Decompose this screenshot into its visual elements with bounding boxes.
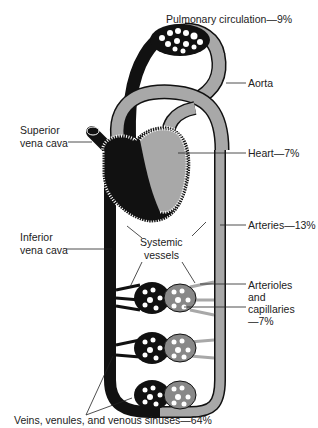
circulation-diagram: [0, 0, 318, 428]
label-systemic-vessels-line2: vessels: [144, 249, 179, 261]
capillary-bed-1: [116, 282, 214, 315]
label-pulmonary-circulation: Pulmonary circulation—9%: [166, 13, 292, 25]
label-inferior-vena-cava-line2: vena cava: [20, 244, 68, 256]
label-arterioles-line1: Arterioles: [248, 279, 292, 291]
capillary-bed-3: [134, 380, 196, 410]
label-heart: Heart—7%: [248, 147, 299, 159]
label-superior-vena-cava-line2: vena cava: [20, 137, 68, 149]
label-veins-venules-sinuses: Veins, venules, and venous sinuses—64%: [14, 414, 212, 426]
label-aorta: Aorta: [248, 77, 273, 89]
capillary-bed-2: [116, 332, 214, 364]
label-arterioles-line4: —7%: [248, 315, 274, 327]
systemic-capillary-beds: [116, 282, 214, 410]
label-superior-vena-cava-line1: Superior: [20, 124, 60, 136]
label-arteries: Arteries—13%: [248, 219, 316, 231]
label-systemic-vessels-line1: Systemic: [140, 236, 183, 248]
label-arterioles-line3: capillaries: [248, 303, 295, 315]
label-arterioles-line2: and: [248, 291, 266, 303]
label-inferior-vena-cava-line1: Inferior: [20, 231, 53, 243]
